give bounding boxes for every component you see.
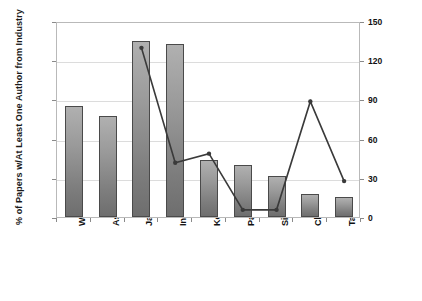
- right-axis-tick-label: 90: [368, 95, 408, 105]
- line-marker: [173, 161, 177, 165]
- right-axis-tick-label: 150: [368, 17, 408, 27]
- line-marker: [342, 179, 346, 183]
- right-axis-tick-label: 0: [368, 213, 408, 223]
- plot-area: [56, 22, 360, 218]
- chart-container: % of Papers w/At Least One Author from I…: [0, 0, 422, 301]
- line-series: [57, 23, 361, 219]
- line-marker: [308, 99, 312, 103]
- line-path: [141, 48, 344, 210]
- line-marker: [241, 208, 245, 212]
- line-marker: [274, 208, 278, 212]
- right-axis-tick-label: 30: [368, 174, 408, 184]
- right-axis-tick-label: 120: [368, 56, 408, 66]
- left-axis-title: % of Papers w/At Least One Author from I…: [14, 15, 24, 225]
- line-marker: [139, 46, 143, 50]
- line-marker: [207, 151, 211, 155]
- right-axis-tick-label: 60: [368, 135, 408, 145]
